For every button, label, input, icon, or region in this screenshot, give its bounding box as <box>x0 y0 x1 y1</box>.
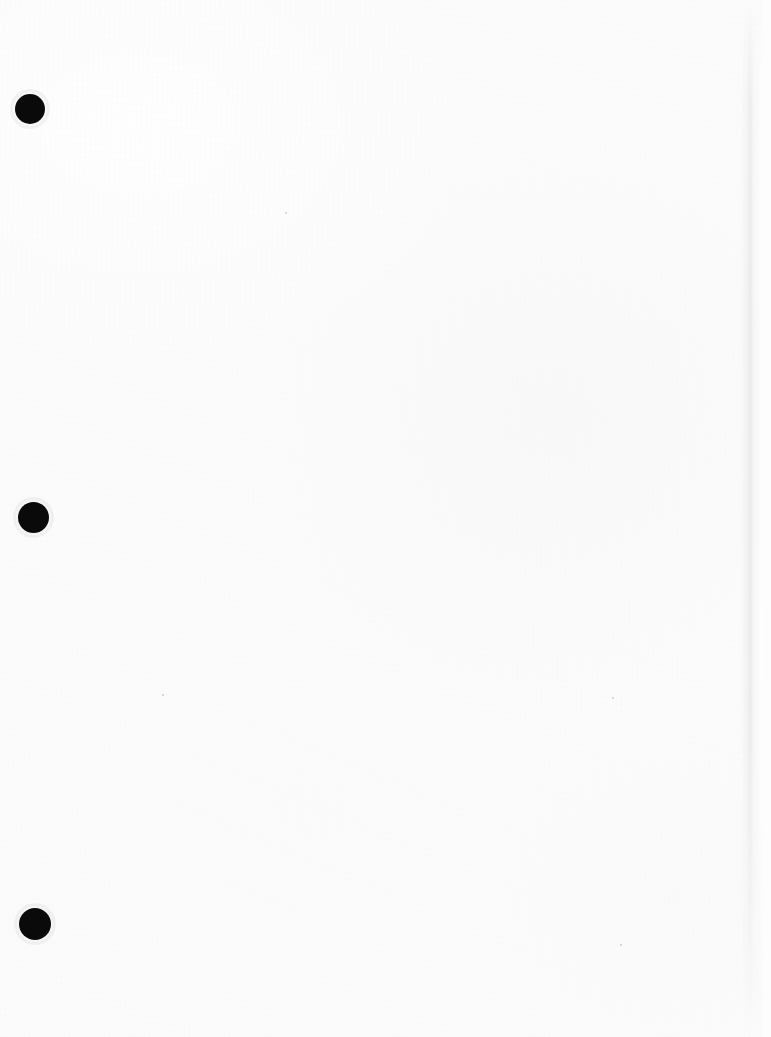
paper-grain-texture <box>0 0 771 1037</box>
hole-punch-bottom <box>19 908 51 940</box>
paper-fiber-texture <box>0 0 771 1037</box>
hole-punch-middle <box>18 502 49 533</box>
speck-right-upper <box>612 697 614 699</box>
scanned-document-page <box>0 0 771 1037</box>
hole-punch-top <box>15 94 45 124</box>
speck-upper-center <box>285 212 287 214</box>
page-outside-area <box>763 0 771 1037</box>
speck-lower-right <box>620 944 622 946</box>
speck-mid-left <box>162 694 164 696</box>
page-right-edge <box>741 0 763 1037</box>
